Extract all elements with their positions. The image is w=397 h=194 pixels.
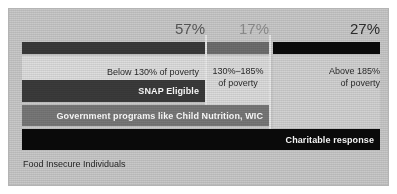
- bar-charitable-response: Charitable response: [22, 129, 380, 150]
- percent-label-above-185: 27%: [273, 19, 380, 39]
- segment-130-185: [207, 42, 269, 54]
- caption-130-185: 130%–185% of poverty: [209, 65, 267, 89]
- caption-below-130-line1: Below 130% of poverty: [29, 66, 199, 78]
- caption-130-185-line1: 130%–185%: [209, 65, 267, 77]
- bar-government-programs: Government programs like Child Nutrition…: [22, 105, 269, 126]
- caption-above-185-line1: Above 185%: [275, 65, 380, 77]
- segment-above-185: [273, 42, 380, 54]
- percent-label-below-130: 57%: [22, 19, 205, 39]
- bar-label-charitable-response: Charitable response: [286, 135, 374, 145]
- chart-figure: 57% 17% 27% Below 130% of poverty 130%–1…: [0, 0, 397, 194]
- percent-label-130-185: 17%: [209, 19, 269, 39]
- footer-note: Food Insecure Individuals: [23, 159, 126, 169]
- caption-below-130: Below 130% of poverty: [29, 66, 199, 78]
- segment-below-130: [22, 42, 205, 54]
- chart-plate: 57% 17% 27% Below 130% of poverty 130%–1…: [8, 8, 389, 186]
- caption-130-185-line2: of poverty: [209, 77, 267, 89]
- caption-above-185: Above 185% of poverty: [275, 65, 380, 89]
- bar-label-snap-eligible: SNAP Eligible: [138, 86, 199, 96]
- caption-above-185-line2: of poverty: [275, 77, 380, 89]
- bar-snap-eligible: SNAP Eligible: [22, 80, 205, 102]
- bar-label-government-programs: Government programs like Child Nutrition…: [56, 111, 263, 121]
